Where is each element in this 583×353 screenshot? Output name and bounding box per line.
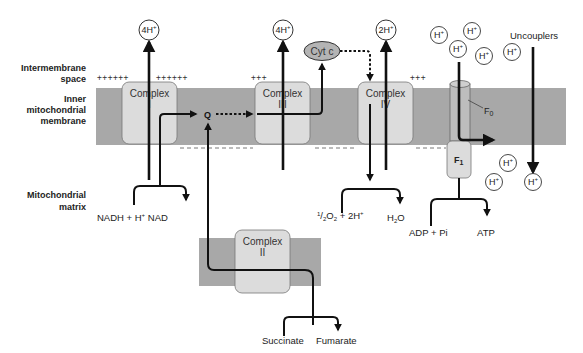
atp-synthase-f1: F1 — [447, 141, 471, 178]
plus-charges-4: +++ — [410, 73, 426, 82]
proton-7: H+ — [486, 174, 503, 191]
svg-text:Complex: Complex — [243, 236, 282, 247]
label-inner-3: membrane — [40, 116, 86, 126]
label-matrix-2: matrix — [59, 202, 86, 212]
svg-text:Cyt c: Cyt c — [311, 46, 334, 57]
side-labels: Intermembrane space Inner mitochondrial … — [21, 63, 87, 212]
label-matrix-1: Mitochondrial — [27, 190, 86, 200]
svg-text:II: II — [260, 247, 266, 258]
label-inner-1: Inner — [64, 94, 87, 104]
water-label: H2O — [387, 212, 405, 224]
uncouplers-label: Uncouplers — [510, 30, 558, 41]
cytochrome-c: Cyt c — [304, 42, 340, 61]
proton-8: H+ — [525, 174, 542, 191]
ubiquinone-q: Q — [204, 110, 211, 120]
label-inner-2: mitochondrial — [26, 105, 86, 115]
nadh-branch — [134, 178, 186, 205]
electron-transport-chain-diagram: Intermembrane space Inner mitochondrial … — [0, 0, 583, 353]
atp-branch — [431, 178, 487, 226]
label-intermembrane-1: Intermembrane — [21, 63, 86, 73]
nadh-label: NADH + H+ NAD — [97, 212, 168, 223]
proton-1: H+ — [431, 27, 448, 44]
plus-charges-2: ++++++ — [156, 73, 188, 82]
electron-path-cii-to-q — [208, 124, 313, 325]
proton-4: H+ — [476, 48, 493, 65]
proton-2: H+ — [464, 23, 481, 40]
proton-5: H+ — [504, 44, 521, 61]
adp-label: ADP + Pi — [409, 227, 448, 238]
plus-charges-1: ++++++ — [97, 73, 129, 82]
plus-charges-3: +++ — [251, 73, 267, 82]
succinate-label: Succinate — [262, 335, 304, 346]
atp-label: ATP — [477, 227, 495, 238]
fumarate-label: Fumarate — [316, 335, 357, 346]
electron-path-cytc-to-civ — [340, 51, 370, 80]
complex-ii: Complex II — [199, 230, 321, 293]
succinate-branch — [284, 317, 338, 336]
proton-6: H+ — [500, 155, 517, 172]
half-o2-label: 1/2O2 + 2H+ — [317, 210, 364, 222]
label-intermembrane-2: space — [60, 74, 86, 84]
proton-3: H+ — [450, 41, 467, 58]
